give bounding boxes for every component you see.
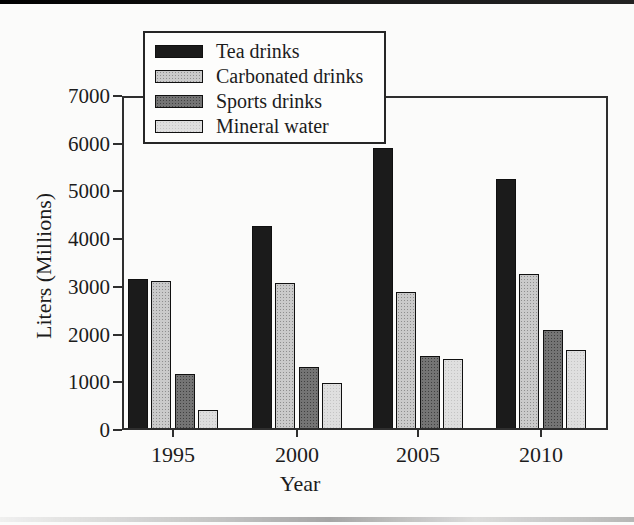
page-bottom-scan-artifact: [0, 517, 634, 522]
y-tick-label-1000: 1000: [32, 370, 110, 394]
y-tick-mark-6000: [113, 143, 122, 145]
legend-item-tea-drinks: Tea drinks: [155, 39, 384, 64]
y-tick-label-5000: 5000: [32, 179, 110, 203]
legend-item-mineral-water: Mineral water: [155, 114, 384, 139]
x-tick-label-2000: 2000: [252, 442, 342, 468]
x-tick-mark-2005: [417, 430, 419, 437]
legend-label-sports-drinks: Sports drinks: [216, 90, 322, 113]
y-tick-label-0: 0: [32, 418, 110, 442]
x-tick-label-2005: 2005: [373, 442, 463, 468]
y-tick-mark-5000: [113, 190, 122, 192]
legend-swatch-tea-drinks: [155, 45, 203, 58]
legend-label-carbonated-drinks: Carbonated drinks: [216, 65, 363, 88]
legend: Tea drinksCarbonated drinksSports drinks…: [143, 31, 386, 144]
y-tick-mark-1000: [113, 381, 122, 383]
x-tick-label-2010: 2010: [496, 442, 586, 468]
legend-swatch-carbonated-drinks: [155, 70, 203, 83]
x-tick-mark-1995: [172, 430, 174, 437]
y-tick-mark-0: [113, 429, 122, 431]
figure-canvas: 01000200030004000500060007000 1995200020…: [0, 0, 634, 525]
y-tick-label-6000: 6000: [32, 132, 110, 156]
x-tick-mark-2000: [296, 430, 298, 437]
legend-swatch-sports-drinks: [155, 95, 203, 108]
legend-item-sports-drinks: Sports drinks: [155, 89, 384, 114]
y-tick-mark-3000: [113, 286, 122, 288]
page-top-rule: [0, 0, 634, 4]
y-tick-label-2000: 2000: [32, 323, 110, 347]
y-tick-mark-2000: [113, 334, 122, 336]
x-tick-label-1995: 1995: [128, 442, 218, 468]
y-tick-label-4000: 4000: [32, 227, 110, 251]
x-axis-title: Year: [255, 471, 345, 497]
legend-label-tea-drinks: Tea drinks: [216, 40, 300, 63]
x-tick-mark-2010: [540, 430, 542, 437]
y-tick-label-3000: 3000: [32, 275, 110, 299]
y-axis-title: Liters (Millions): [31, 193, 57, 339]
legend-label-mineral-water: Mineral water: [216, 115, 329, 138]
legend-item-carbonated-drinks: Carbonated drinks: [155, 64, 384, 89]
legend-swatch-mineral-water: [155, 120, 203, 133]
plot-area: [122, 96, 608, 430]
y-tick-label-7000: 7000: [32, 84, 110, 108]
y-tick-mark-7000: [113, 95, 122, 97]
y-tick-mark-4000: [113, 238, 122, 240]
